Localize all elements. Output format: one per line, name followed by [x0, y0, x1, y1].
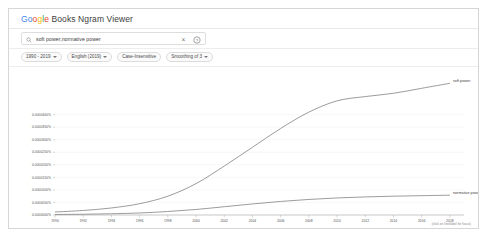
series-label-soft-power[interactable]: soft power	[453, 79, 471, 83]
y-axis-tick-label: 0.0000150%	[32, 176, 51, 180]
x-axis-tick-label: 2014	[390, 219, 398, 223]
series-line-normative-power[interactable]	[55, 195, 450, 214]
chip-smoothing-label: Smoothing of 3	[171, 52, 202, 62]
chip-case-insensitive-label: Case-Insensitive	[122, 52, 156, 62]
chip-date-range[interactable]: 1990 - 2019	[21, 52, 62, 62]
chart-axis-caption: (click on line/label for focus)	[432, 222, 471, 226]
x-axis-tick-label: 2004	[249, 219, 257, 223]
chip-date-range-label: 1990 - 2019	[26, 52, 51, 62]
chip-corpus-label: English (2019)	[72, 52, 102, 62]
y-axis-tick-label: 0.0000200%	[32, 163, 51, 167]
filter-chip-group: 1990 - 2019 English (2019) Case-Insensit…	[21, 52, 213, 62]
filters-row: 1990 - 2019 English (2019) Case-Insensit…	[9, 49, 478, 67]
page-title-text: Books Ngram Viewer	[49, 14, 133, 24]
x-axis-tick-label: 2008	[305, 219, 313, 223]
x-axis-tick-label: 2000	[192, 219, 200, 223]
x-axis-tick-label: 1992	[79, 219, 87, 223]
search-input[interactable]: soft power,normative power × ?	[21, 32, 206, 45]
app-header: Google Books Ngram Viewer	[9, 9, 478, 29]
ngram-viewer-card: Google Books Ngram Viewer soft power,nor…	[8, 8, 479, 229]
screenshot-root: Google Books Ngram Viewer soft power,nor…	[0, 0, 487, 238]
search-row: soft power,normative power × ?	[9, 29, 478, 49]
page-title: Google Books Ngram Viewer	[21, 14, 133, 24]
x-axis-tick-label: 2010	[333, 219, 341, 223]
chip-corpus[interactable]: English (2019)	[67, 52, 113, 62]
chart-x-axis	[55, 215, 464, 218]
logo-letter-g: Go	[21, 14, 33, 24]
x-axis-tick-label: 1990	[51, 219, 59, 223]
chart-gridlines	[53, 115, 464, 215]
x-axis-tick-label: 1996	[136, 219, 144, 223]
chart-x-axis-labels: 1990199219941996199820002002200420062008…	[51, 219, 454, 223]
series-line-soft-power[interactable]	[55, 83, 450, 212]
series-label-normative-power[interactable]: normative power	[453, 191, 478, 195]
x-axis-tick-label: 1994	[108, 219, 116, 223]
y-axis-tick-label: 0.0000400%	[32, 113, 51, 117]
ngram-chart[interactable]: 0.0000000%0.0000050%0.0000100%0.0000150%…	[9, 67, 478, 229]
x-axis-tick-label: 2016	[418, 219, 426, 223]
x-axis-tick-label: 1998	[164, 219, 172, 223]
chart-y-axis-labels: 0.0000000%0.0000050%0.0000100%0.0000150%…	[32, 113, 51, 217]
chevron-down-icon	[103, 56, 107, 58]
y-axis-tick-label: 0.0000350%	[32, 125, 51, 129]
y-axis-tick-label: 0.0000000%	[32, 213, 51, 217]
y-axis-tick-label: 0.0000250%	[32, 150, 51, 154]
svg-text:?: ?	[196, 38, 199, 43]
y-axis-tick-label: 0.0000050%	[32, 201, 51, 205]
chevron-down-icon	[204, 56, 208, 58]
y-axis-tick-label: 0.0000300%	[32, 138, 51, 142]
close-icon[interactable]: ×	[180, 36, 187, 43]
x-axis-tick-label: 2006	[277, 219, 285, 223]
x-axis-tick-label: 2002	[220, 219, 228, 223]
chevron-down-icon	[53, 56, 57, 58]
chip-smoothing[interactable]: Smoothing of 3	[166, 52, 213, 62]
search-query-text: soft power,normative power	[36, 36, 101, 42]
ngram-plot-svg[interactable]: 0.0000000%0.0000050%0.0000100%0.0000150%…	[9, 67, 478, 229]
x-axis-tick-label: 2012	[362, 219, 370, 223]
help-circle-icon[interactable]: ?	[193, 36, 201, 44]
search-icon	[26, 37, 32, 43]
y-axis-tick-label: 0.0000100%	[32, 188, 51, 192]
chip-case-insensitive[interactable]: Case-Insensitive	[117, 52, 161, 62]
chart-series-lines[interactable]	[55, 83, 450, 214]
